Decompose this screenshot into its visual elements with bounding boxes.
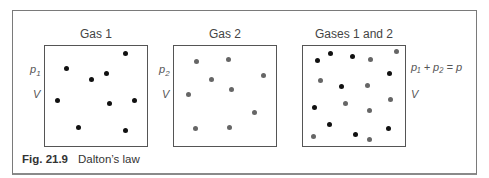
gas-2-molecule (368, 57, 373, 62)
gas-1-molecule (89, 77, 94, 82)
gas-1-molecule (387, 71, 392, 76)
gas-2-molecule (226, 57, 231, 62)
gas-2-molecule (209, 77, 214, 82)
gas-1-molecule (315, 58, 320, 63)
gas-1-molecule (353, 132, 358, 137)
panel-title-gas-1: Gas 1 (44, 27, 148, 41)
gas-2-molecule (394, 49, 399, 54)
gas-2-molecule (252, 110, 257, 115)
gas-1-molecule (123, 128, 128, 133)
gas-2-molecule (194, 59, 199, 64)
pressure-label-p2: p2 (159, 63, 170, 78)
gas-2-molecule (261, 73, 266, 78)
panel-title-gas-2: Gas 2 (173, 27, 277, 41)
gas-1-molecule (55, 98, 60, 103)
gas-2-molecule (367, 108, 372, 113)
gas-1-molecule (107, 101, 112, 106)
container-gas-1 (44, 45, 148, 147)
gas-1-molecule (327, 122, 332, 127)
gas-2-molecule (388, 97, 393, 102)
volume-label-1: V (33, 88, 40, 100)
gas-2-molecule (227, 125, 232, 130)
gas-2-molecule (367, 137, 372, 142)
gas-2-molecule (365, 83, 370, 88)
pressure-label-p1: p1 (30, 63, 41, 78)
figure-caption: Fig. 21.9Dalton’s law (22, 153, 140, 165)
figure-number: Fig. 21.9 (22, 153, 68, 165)
total-pressure-equation: p₁ + p₂ = p (411, 61, 462, 73)
volume-label-3: V (411, 88, 418, 100)
gas-1-molecule (104, 71, 109, 76)
gas-1-molecule (350, 54, 355, 59)
gas-1-molecule (312, 105, 317, 110)
gas-1-molecule (339, 84, 344, 89)
gas-2-molecule (186, 92, 191, 97)
figure-title: Dalton’s law (78, 153, 140, 165)
gas-2-molecule (318, 78, 323, 83)
gas-1-molecule (64, 66, 69, 71)
gas-1-molecule (76, 125, 81, 130)
gas-1-molecule (328, 51, 333, 56)
panel-title-gases-1-and-2: Gases 1 and 2 (302, 27, 406, 41)
volume-label-2: V (162, 88, 169, 100)
gas-1-molecule (123, 51, 128, 56)
gas-2-molecule (193, 126, 198, 131)
gas-2-molecule (343, 101, 348, 106)
gas-2-molecule (311, 134, 316, 139)
gas-1-molecule (132, 98, 137, 103)
gas-2-molecule (229, 87, 234, 92)
gas-1-molecule (386, 126, 391, 131)
